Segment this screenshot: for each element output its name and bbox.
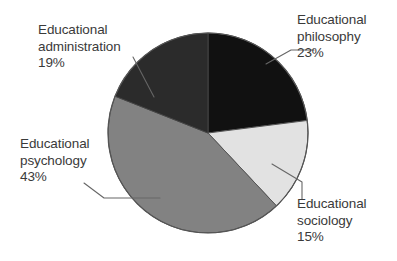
slice-label-sociology-line2: sociology: [297, 213, 366, 230]
slice-value-psychology: 43%: [20, 169, 89, 186]
slice-label-philosophy-line1: Educational: [297, 12, 366, 29]
slice-label-sociology: Educational sociology 15%: [297, 196, 366, 246]
slice-label-philosophy: Educational philosophy 23%: [297, 12, 366, 62]
pie-slice-philosophy[interactable]: [208, 33, 307, 133]
slice-label-psychology: Educational psychology 43%: [20, 136, 89, 186]
slice-label-psychology-line1: Educational: [20, 136, 89, 153]
slice-value-administration: 19%: [38, 55, 121, 72]
slice-value-sociology: 15%: [297, 229, 366, 246]
slice-value-philosophy: 23%: [297, 45, 366, 62]
pie-chart-figure: Educational philosophy 23% Educational a…: [0, 0, 397, 261]
slice-label-psychology-line2: psychology: [20, 153, 89, 170]
slice-label-administration: Educational administration 19%: [38, 22, 121, 72]
slice-label-administration-line1: Educational: [38, 22, 121, 39]
slice-label-philosophy-line2: philosophy: [297, 29, 366, 46]
slice-label-administration-line2: administration: [38, 39, 121, 56]
slice-label-sociology-line1: Educational: [297, 196, 366, 213]
pie-slices: [108, 33, 308, 233]
